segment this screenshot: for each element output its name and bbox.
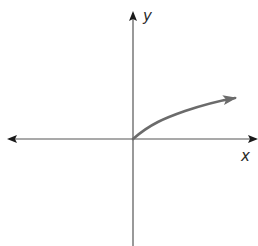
y-axis-label: y <box>142 7 153 25</box>
sqrt-curve <box>133 98 235 139</box>
x-axis-label: x <box>240 147 250 165</box>
coordinate-plane: x y <box>0 0 258 246</box>
graph-canvas: x y <box>0 0 258 246</box>
